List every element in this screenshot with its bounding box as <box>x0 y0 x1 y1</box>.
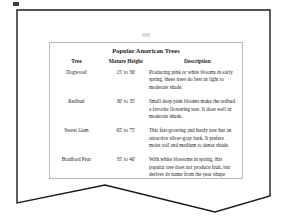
table-row: Sweet Gum 65' to 75' This fast-growing a… <box>50 127 242 156</box>
column-header-mature-height: Mature Height <box>103 57 149 69</box>
table-body: Dogwood 15' to 30' Producing pink or whi… <box>50 69 242 179</box>
faint-scan-mark <box>142 33 150 37</box>
column-header-tree: Tree <box>50 57 103 69</box>
tree-table-container: Popular American Trees Tree Mature Heigh… <box>49 42 243 179</box>
popular-american-trees-table: Popular American Trees Tree Mature Heigh… <box>50 43 242 179</box>
cell-mature-height: 15' to 30' <box>103 69 149 98</box>
cell-tree-name: Sweet Gum <box>50 127 103 156</box>
cell-tree-name: Dogwood <box>50 69 103 98</box>
cell-description: This fast-growing and hardy tree has an … <box>149 127 242 156</box>
column-header-description: Description <box>149 57 242 69</box>
cell-description: Small deep pink blooms make the redbud a… <box>149 98 242 127</box>
table-row: Dogwood 15' to 30' Producing pink or whi… <box>50 69 242 98</box>
scanned-document-page: Popular American Trees Tree Mature Heigh… <box>0 0 288 223</box>
scan-smudge-mark <box>13 2 19 6</box>
cell-tree-name: Redbud <box>50 98 103 127</box>
table-row: Redbud 30' to 35' Small deep pink blooms… <box>50 98 242 127</box>
table-header-row: Tree Mature Height Description <box>50 57 242 69</box>
cell-mature-height: 65' to 75' <box>103 127 149 156</box>
cell-mature-height: 30' to 35' <box>103 98 149 127</box>
cell-description: With white blossoms in spring, this popu… <box>149 156 242 179</box>
cell-tree-name: Bradford Pear <box>50 156 103 179</box>
table-row: Bradford Pear 35' to 40' With white blos… <box>50 156 242 179</box>
cell-description: Producing pink or white blooms in early … <box>149 69 242 98</box>
table-header: Tree Mature Height Description <box>50 57 242 69</box>
table-title: Popular American Trees <box>50 43 242 57</box>
cell-mature-height: 35' to 40' <box>103 156 149 179</box>
